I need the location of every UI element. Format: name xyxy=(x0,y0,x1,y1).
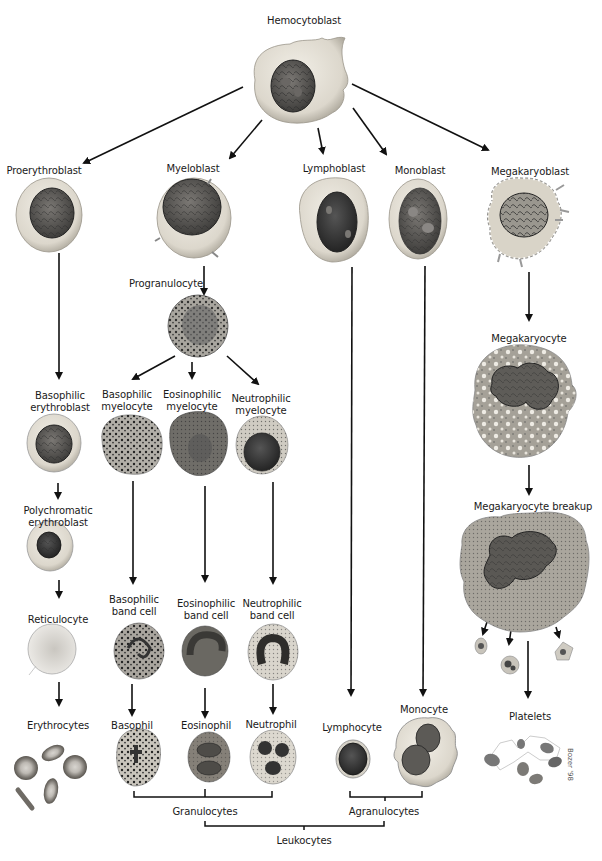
neutrophilic-band-cell-label: Neutrophilic band cell xyxy=(242,598,301,622)
neutrophilic-band-cell xyxy=(248,624,298,680)
eosinophilic-band-cell xyxy=(182,626,228,676)
basophilic-myelocyte-cell xyxy=(102,415,162,474)
monoblast-cell xyxy=(389,179,447,259)
lymphoblast-label: Lymphoblast xyxy=(303,163,365,175)
lymphocyte-label: Lymphocyte xyxy=(322,722,382,734)
eosinophil-label: Eosinophil xyxy=(181,720,231,732)
leukocytes-label: Leukocytes xyxy=(276,835,331,847)
myeloblast-cell xyxy=(155,178,231,258)
granulocytes-label: Granulocytes xyxy=(172,806,237,818)
eosinophilic-band-cell-label: Eosinophilic band cell xyxy=(177,598,235,622)
myeloblast-label: Myeloblast xyxy=(167,163,220,175)
basophilic-myelocyte-label: Basophilic myelocyte xyxy=(101,389,152,413)
basophil-label: Basophil xyxy=(111,720,153,732)
neutrophil-cell xyxy=(250,730,296,784)
eosinophilic-myelocyte-label: Eosinophilic myelocyte xyxy=(163,389,221,413)
proerythroblast-cell xyxy=(16,178,82,252)
agranulocytes-label: Agranulocytes xyxy=(349,806,419,818)
megakaryocyte-breakup-cell xyxy=(460,512,589,674)
basophilic-band-cell xyxy=(114,623,164,679)
neutrophil-label: Neutrophil xyxy=(245,719,296,731)
megakaryoblast-cell xyxy=(487,178,569,267)
hemocytoblast-label: Hemocytoblast xyxy=(267,15,341,27)
progranulocyte-cell xyxy=(168,295,228,357)
reticulocyte-label: Reticulocyte xyxy=(28,614,88,626)
megakaryocyte-cell xyxy=(473,345,576,458)
lymphoblast-cell xyxy=(299,178,368,262)
megakaryoblast-label: Megakaryoblast xyxy=(491,166,569,178)
basophilic-band-cell-label: Basophilic band cell xyxy=(109,594,159,618)
monocyte-cell xyxy=(394,718,457,787)
reticulocyte-cell xyxy=(28,624,76,675)
basophilic-erythroblast-label: Basophilic erythroblast xyxy=(30,390,90,414)
artist-signature: Bozer '98 xyxy=(566,748,574,781)
eosinophilic-myelocyte-cell xyxy=(170,412,228,476)
cell-illustrations xyxy=(0,0,602,861)
megakaryocyte-breakup-label: Megakaryocyte breakup xyxy=(474,501,592,513)
lymphocyte-cell xyxy=(336,740,370,778)
hemocytoblast-cell xyxy=(254,37,348,123)
polychromatic-erythroblast-label: Polychromatic erythroblast xyxy=(23,505,92,529)
neutrophilic-myelocyte-label: Neutrophilic myelocyte xyxy=(231,393,290,417)
neutrophilic-myelocyte-cell xyxy=(236,416,288,474)
erythrocytes-group xyxy=(14,742,87,808)
monocyte-label: Monocyte xyxy=(400,704,448,716)
megakaryocyte-label: Megakaryocyte xyxy=(491,333,566,345)
basophilic-erythroblast-cell xyxy=(27,414,81,472)
progranulocyte-label: Progranulocyte xyxy=(129,278,203,290)
monoblast-label: Monoblast xyxy=(395,165,446,177)
eosinophil-cell xyxy=(188,732,230,782)
platelets-group xyxy=(482,736,563,786)
erythrocytes-label: Erythrocytes xyxy=(27,720,89,732)
basophil-cell xyxy=(117,729,161,786)
proerythroblast-label: Proerythroblast xyxy=(6,165,81,177)
platelets-label: Platelets xyxy=(509,711,551,723)
